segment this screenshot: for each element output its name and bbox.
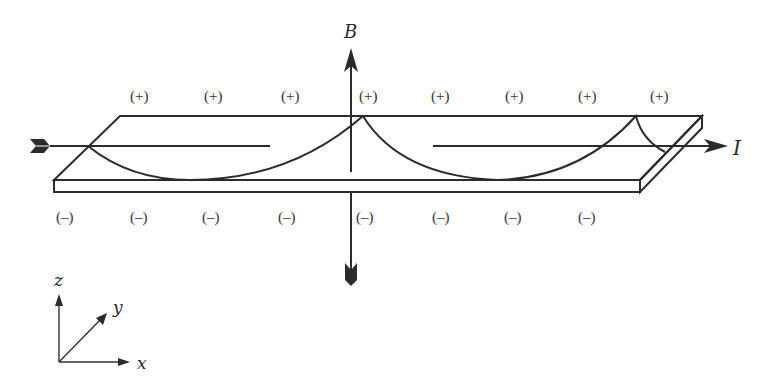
x-axis-label: x xyxy=(137,353,147,373)
negative-charge: (–) xyxy=(202,209,220,226)
positive-charge: (+) xyxy=(130,88,148,105)
charge-trajectory-curve xyxy=(88,116,665,180)
positive-charges-row: (+) (+) (+) (+) (+) (+) (+) (+) xyxy=(130,88,668,105)
current-label: I xyxy=(732,136,742,160)
positive-charge: (+) xyxy=(431,88,449,105)
negative-charge: (–) xyxy=(578,209,596,226)
slab-right-face xyxy=(640,116,702,192)
negative-charge: (–) xyxy=(56,209,74,226)
positive-charge: (+) xyxy=(204,88,222,105)
current-arrow xyxy=(30,139,728,153)
current-fletching-icon xyxy=(30,139,50,153)
negative-charges-row: (–) (–) (–) (–) (–) (–) (–) (–) xyxy=(56,209,596,226)
slab-front-face xyxy=(54,180,640,192)
magnetic-field-label: B xyxy=(343,21,357,42)
x-axis-arrowhead-icon xyxy=(118,358,130,366)
z-axis-arrowhead-icon xyxy=(55,294,63,306)
positive-charge: (+) xyxy=(578,88,596,105)
y-axis-line xyxy=(59,319,101,362)
negative-charge: (–) xyxy=(432,209,450,226)
y-axis-label: y xyxy=(112,297,123,317)
positive-charge: (+) xyxy=(505,88,523,105)
positive-charge: (+) xyxy=(359,88,377,105)
negative-charge: (–) xyxy=(504,209,522,226)
positive-charge: (+) xyxy=(281,88,299,105)
slab-top-face xyxy=(54,116,702,180)
z-axis-label: z xyxy=(53,270,64,290)
negative-charge: (–) xyxy=(130,209,148,226)
negative-charge: (–) xyxy=(278,209,296,226)
negative-charge: (–) xyxy=(356,209,374,226)
positive-charge: (+) xyxy=(650,88,668,105)
conducting-slab xyxy=(54,116,702,192)
hall-effect-diagram: I B (+) (+) (+) (+) (+) (+) (+) (+) (–) … xyxy=(0,0,774,387)
magnetic-field-arrow xyxy=(344,48,358,286)
